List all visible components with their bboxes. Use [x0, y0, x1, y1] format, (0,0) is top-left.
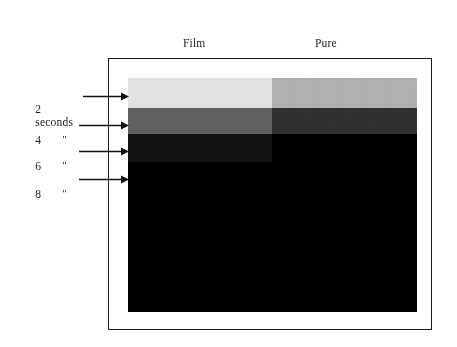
wedge-row-8-seconds — [128, 162, 417, 312]
arrow-8-seconds — [79, 175, 129, 184]
wedge-patch-6s-film-base-side — [128, 134, 272, 162]
exposure-label-4-value: 4 — [35, 134, 41, 146]
arrow-6-seconds — [79, 147, 129, 156]
exposure-test-figure: Film base side Pure light side 2 — [0, 0, 457, 347]
wedge-row-4-seconds — [128, 108, 417, 134]
exposure-label-2-value: 2 — [35, 103, 41, 115]
exposure-label-8-ditto: " — [62, 187, 67, 200]
exposure-label-4-ditto: " — [62, 133, 67, 146]
wedge-patch-4s-pure-light-side — [272, 108, 417, 134]
exposure-label-6-value: 6 — [35, 160, 41, 172]
arrow-4-seconds — [79, 121, 129, 130]
exposure-label-8-value: 8 — [35, 188, 41, 200]
wedge-patch-8s-film-base-side — [128, 162, 272, 312]
exposure-label-6-ditto: " — [62, 159, 67, 172]
wedge-patch-2s-film-base-side — [128, 78, 272, 108]
wedge-patch-8s-pure-light-side — [272, 162, 417, 312]
wedge-patch-2s-pure-light-side — [272, 78, 417, 108]
wedge-patch-6s-pure-light-side — [272, 134, 417, 162]
exposure-label-8-seconds: 8" — [23, 174, 67, 214]
column-heading-film-line-1: Film — [183, 36, 205, 51]
arrow-2-seconds — [83, 92, 129, 101]
exposure-step-wedge — [128, 78, 417, 312]
wedge-row-2-seconds — [128, 78, 417, 108]
column-heading-pure-line-1: Pure — [315, 36, 337, 51]
wedge-patch-4s-film-base-side — [128, 108, 272, 134]
wedge-row-6-seconds — [128, 134, 417, 162]
